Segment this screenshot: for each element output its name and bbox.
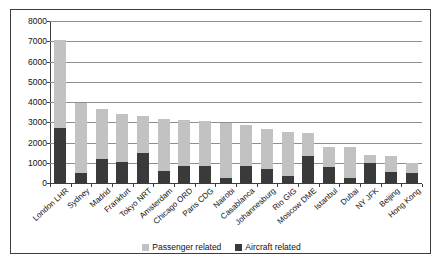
legend-item: Aircraft related	[235, 243, 300, 252]
bar-stack	[199, 121, 211, 183]
x-axis-tick	[215, 184, 216, 187]
bar-segment-passenger-related	[282, 132, 294, 176]
legend-swatch-icon	[142, 244, 149, 251]
bar-stack	[137, 116, 149, 183]
bar-stack	[96, 109, 108, 183]
x-axis-tick	[381, 184, 382, 187]
bar-segment-passenger-related	[116, 114, 128, 162]
gridline	[50, 41, 422, 42]
x-axis-tick	[236, 184, 237, 187]
bar-stack	[302, 133, 314, 183]
y-axis-tick	[47, 62, 50, 63]
bar-segment-passenger-related	[240, 125, 252, 166]
bar-segment-aircraft-related	[385, 172, 397, 183]
y-axis-tick-label: 0	[13, 179, 47, 188]
bar-segment-aircraft-related	[116, 162, 128, 183]
y-axis-tick	[47, 21, 50, 22]
bar-stack	[54, 40, 66, 183]
bar-segment-passenger-related	[96, 109, 108, 159]
bar-stack	[240, 125, 252, 183]
y-axis-tick-label: 6000	[13, 58, 47, 67]
x-axis-tick	[133, 184, 134, 187]
bar-stack	[116, 114, 128, 183]
bar-segment-passenger-related	[54, 40, 66, 128]
bar-stack	[364, 155, 376, 183]
y-axis-tick-label: 1000	[13, 159, 47, 168]
bar-segment-aircraft-related	[406, 173, 418, 183]
bar-segment-passenger-related	[137, 116, 149, 152]
y-axis-tick	[47, 41, 50, 42]
gridline	[50, 102, 422, 103]
bar-stack	[220, 123, 232, 183]
bar-segment-passenger-related	[344, 147, 356, 177]
bar-segment-passenger-related	[75, 103, 87, 173]
x-axis-tick	[422, 184, 423, 187]
gridline	[50, 62, 422, 63]
bar-segment-aircraft-related	[302, 156, 314, 183]
y-axis-tick-label: 8000	[13, 17, 47, 26]
bar-segment-aircraft-related	[323, 167, 335, 183]
bar-segment-passenger-related	[158, 119, 170, 171]
gridline	[50, 82, 422, 83]
bar-segment-aircraft-related	[96, 159, 108, 183]
bar-stack	[158, 119, 170, 183]
y-axis-tick-label: 2000	[13, 139, 47, 148]
bar-segment-aircraft-related	[220, 178, 232, 183]
y-axis: 800070006000500040003000200010000	[11, 10, 47, 194]
chart-container: 800070006000500040003000200010000 London…	[10, 9, 431, 254]
x-axis-tick	[195, 184, 196, 187]
x-axis-tick	[71, 184, 72, 187]
bar-segment-aircraft-related	[199, 166, 211, 183]
legend-swatch-icon	[235, 244, 242, 251]
bar-stack	[261, 129, 273, 183]
y-axis-tick-label: 4000	[13, 98, 47, 107]
y-axis-tick	[47, 163, 50, 164]
x-axis-tick	[277, 184, 278, 187]
bar-segment-aircraft-related	[54, 128, 66, 183]
x-axis-tick	[153, 184, 154, 187]
bar-segment-passenger-related	[261, 129, 273, 168]
y-axis-tick	[47, 122, 50, 123]
x-axis-tick	[174, 184, 175, 187]
x-axis-tick	[360, 184, 361, 187]
bar-stack	[282, 132, 294, 183]
legend-label: Aircraft related	[245, 243, 300, 252]
y-axis-tick	[47, 82, 50, 83]
gridline	[50, 21, 422, 22]
legend-label: Passenger related	[152, 243, 221, 252]
x-axis-tick	[91, 184, 92, 187]
bar-segment-passenger-related	[364, 155, 376, 162]
bar-segment-aircraft-related	[261, 169, 273, 183]
x-axis-tick	[339, 184, 340, 187]
chart-legend: Passenger relatedAircraft related	[11, 243, 432, 252]
bar-stack	[406, 163, 418, 183]
bar-segment-aircraft-related	[158, 171, 170, 183]
plot-area	[50, 21, 422, 183]
bar-segment-passenger-related	[220, 123, 232, 178]
x-axis-tick	[257, 184, 258, 187]
bar-segment-passenger-related	[178, 120, 190, 165]
y-axis-tick	[47, 102, 50, 103]
legend-item: Passenger related	[142, 243, 221, 252]
bar-stack	[344, 147, 356, 183]
bar-segment-aircraft-related	[178, 166, 190, 183]
x-axis-labels: London LHRSydneyMadridFrankfurtTokyo NRT…	[50, 187, 422, 243]
y-axis-tick-label: 5000	[13, 78, 47, 87]
y-axis-tick	[47, 143, 50, 144]
bar-stack	[75, 103, 87, 183]
bar-segment-aircraft-related	[75, 173, 87, 183]
bar-segment-passenger-related	[302, 133, 314, 156]
bar-segment-aircraft-related	[344, 178, 356, 183]
bar-stack	[323, 147, 335, 183]
x-axis-tick	[401, 184, 402, 187]
x-axis-tick	[319, 184, 320, 187]
bar-segment-passenger-related	[199, 121, 211, 166]
bar-stack	[178, 120, 190, 183]
bar-segment-passenger-related	[385, 156, 397, 172]
bar-stack	[385, 156, 397, 183]
x-axis-tick	[298, 184, 299, 187]
y-axis-tick-label: 3000	[13, 118, 47, 127]
bar-segment-passenger-related	[406, 163, 418, 172]
x-axis-tick	[50, 184, 51, 187]
bar-segment-passenger-related	[323, 147, 335, 168]
